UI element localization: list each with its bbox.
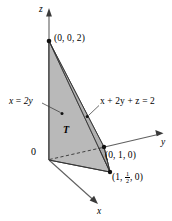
vertex-label-1-half-0: (1, 12, 0) [112, 171, 143, 185]
vertex-dot-y [102, 145, 106, 149]
annotation-plane-equation: x + 2y + z = 2 [100, 97, 155, 107]
vertex-label-0-0-2: (0, 0, 2) [54, 34, 85, 44]
vertex-dot-z [47, 39, 52, 44]
region-label-T: T [63, 125, 69, 135]
vertex-label-1-half-0-prefix: (1, [112, 172, 125, 182]
figure-container: z y x 0 T (0, 0, 2) (0, 1, 0) (1, 12, 0)… [0, 0, 172, 221]
y-axis-label: y [161, 138, 165, 148]
z-axis-label: z [39, 5, 43, 15]
y-axis-arrowhead [155, 130, 163, 136]
fraction-denominator: 2 [125, 177, 129, 184]
vertex-label-0-1-0: (0, 1, 0) [105, 151, 136, 161]
tetrahedron-diagram [0, 0, 172, 221]
annotation-x-equals-2y-op: = [13, 96, 23, 106]
annotation-x-equals-2y-rhs: 2y [24, 96, 33, 106]
solid-faces [49, 41, 110, 172]
leader-dot-plane-equation [86, 115, 89, 118]
leader-line-plane-equation [89, 106, 99, 116]
fraction-one-half: 12 [125, 171, 129, 185]
z-axis-arrowhead [46, 8, 52, 17]
annotation-x-equals-2y: x = 2y [9, 97, 33, 107]
origin-label: 0 [31, 147, 36, 157]
vertex-label-1-half-0-suffix: , 0) [130, 172, 143, 182]
x-axis-label: x [97, 207, 101, 217]
leader-dot-x-equals-2y [61, 112, 64, 115]
